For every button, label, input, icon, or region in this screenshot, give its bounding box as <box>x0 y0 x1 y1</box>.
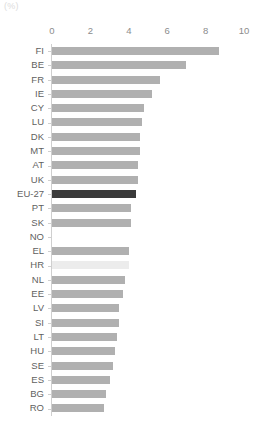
bar-track <box>52 330 244 344</box>
bar-track <box>52 344 244 358</box>
bar[interactable] <box>52 219 131 227</box>
bar[interactable] <box>52 276 125 284</box>
bar[interactable] <box>52 304 119 312</box>
axis-tick-mark <box>48 308 51 309</box>
bar-track <box>52 58 244 72</box>
bar-row[interactable]: RO <box>0 401 278 415</box>
bar-track <box>52 401 244 415</box>
axis-tick-mark <box>48 380 51 381</box>
bar-row-label: CY <box>0 101 44 115</box>
bar[interactable] <box>52 376 110 384</box>
axis-tick-mark <box>48 65 51 66</box>
bar-row[interactable]: PT <box>0 201 278 215</box>
bar-track <box>52 87 244 101</box>
bar-row[interactable]: EL <box>0 244 278 258</box>
bar-row-label: LV <box>0 301 44 315</box>
bar-track <box>52 387 244 401</box>
bar-row-label: EL <box>0 244 44 258</box>
bar-row[interactable]: SK <box>0 216 278 230</box>
bar-row-label: FR <box>0 73 44 87</box>
bar[interactable] <box>52 190 136 198</box>
bar[interactable] <box>52 76 160 84</box>
axis-tick-mark <box>48 409 51 410</box>
bar-track <box>52 273 244 287</box>
bar-track <box>52 115 244 129</box>
bar-row-label: BE <box>0 58 44 72</box>
axis-tick-mark <box>48 194 51 195</box>
bar-track <box>52 201 244 215</box>
bar-track <box>52 158 244 172</box>
bar-row[interactable]: HU <box>0 344 278 358</box>
bar-row[interactable]: SE <box>0 359 278 373</box>
bar-row[interactable]: IE <box>0 87 278 101</box>
x-axis-tick-0: 0 <box>49 25 54 36</box>
bar-row-label: SE <box>0 359 44 373</box>
bar[interactable] <box>52 118 142 126</box>
axis-tick-mark <box>48 137 51 138</box>
bar[interactable] <box>52 362 113 370</box>
bar-row[interactable]: LT <box>0 330 278 344</box>
bar-row-label: SI <box>0 316 44 330</box>
bar-row[interactable]: CY <box>0 101 278 115</box>
bar-row[interactable]: BG <box>0 387 278 401</box>
x-axis-tick-10: 10 <box>239 25 250 36</box>
bar-row[interactable]: FI <box>0 44 278 58</box>
bar-row-label: HR <box>0 258 44 272</box>
axis-tick-mark <box>48 166 51 167</box>
bar-row[interactable]: NO <box>0 230 278 244</box>
bar-track <box>52 258 244 272</box>
bar[interactable] <box>52 104 144 112</box>
bar-row[interactable]: LV <box>0 301 278 315</box>
bar-track <box>52 130 244 144</box>
bar-row[interactable]: MT <box>0 144 278 158</box>
bar-row[interactable]: DK <box>0 130 278 144</box>
bar-row[interactable]: ES <box>0 373 278 387</box>
bar[interactable] <box>52 61 186 69</box>
bar[interactable] <box>52 47 219 55</box>
bar-row[interactable]: SI <box>0 316 278 330</box>
bar-track <box>52 44 244 58</box>
bar-track <box>52 144 244 158</box>
bar[interactable] <box>52 247 129 255</box>
bar[interactable] <box>52 147 140 155</box>
bar[interactable] <box>52 90 152 98</box>
bar[interactable] <box>52 347 115 355</box>
bar-row[interactable]: FR <box>0 73 278 87</box>
axis-tick-mark <box>48 51 51 52</box>
bar[interactable] <box>52 390 106 398</box>
bar[interactable] <box>52 161 138 169</box>
axis-tick-mark <box>48 123 51 124</box>
bar-row[interactable]: UK <box>0 173 278 187</box>
bar-row[interactable]: EU-27 <box>0 187 278 201</box>
bar-row[interactable]: NL <box>0 273 278 287</box>
bar-row-label: EE <box>0 287 44 301</box>
bar[interactable] <box>52 404 104 412</box>
bar-row[interactable]: HR <box>0 258 278 272</box>
bar[interactable] <box>52 333 117 341</box>
bar-track <box>52 101 244 115</box>
bar-row[interactable]: AT <box>0 158 278 172</box>
bar[interactable] <box>52 319 119 327</box>
axis-tick-mark <box>48 151 51 152</box>
bar-row-label: NO <box>0 230 44 244</box>
axis-tick-mark <box>48 223 51 224</box>
bar-row-label: EU-27 <box>0 187 44 201</box>
bar[interactable] <box>52 290 123 298</box>
x-axis-tick-labels: 0246810 <box>52 25 244 39</box>
bar-row-label: LU <box>0 115 44 129</box>
bar-track <box>52 73 244 87</box>
x-axis-tick-8: 8 <box>203 25 208 36</box>
axis-tick-mark <box>48 394 51 395</box>
axis-tick-mark <box>48 108 51 109</box>
bar[interactable] <box>52 261 129 269</box>
bar[interactable] <box>52 133 140 141</box>
bar-row-label: ES <box>0 373 44 387</box>
axis-tick-mark <box>48 180 51 181</box>
bar-row[interactable]: BE <box>0 58 278 72</box>
bar-chart: (%) 0246810 FIBEFRIECYLUDKMTATUKEU-27PTS… <box>0 0 278 424</box>
bar-row[interactable]: EE <box>0 287 278 301</box>
bar-row[interactable]: LU <box>0 115 278 129</box>
bar[interactable] <box>52 176 138 184</box>
bar[interactable] <box>52 204 131 212</box>
x-axis-tick-4: 4 <box>126 25 131 36</box>
